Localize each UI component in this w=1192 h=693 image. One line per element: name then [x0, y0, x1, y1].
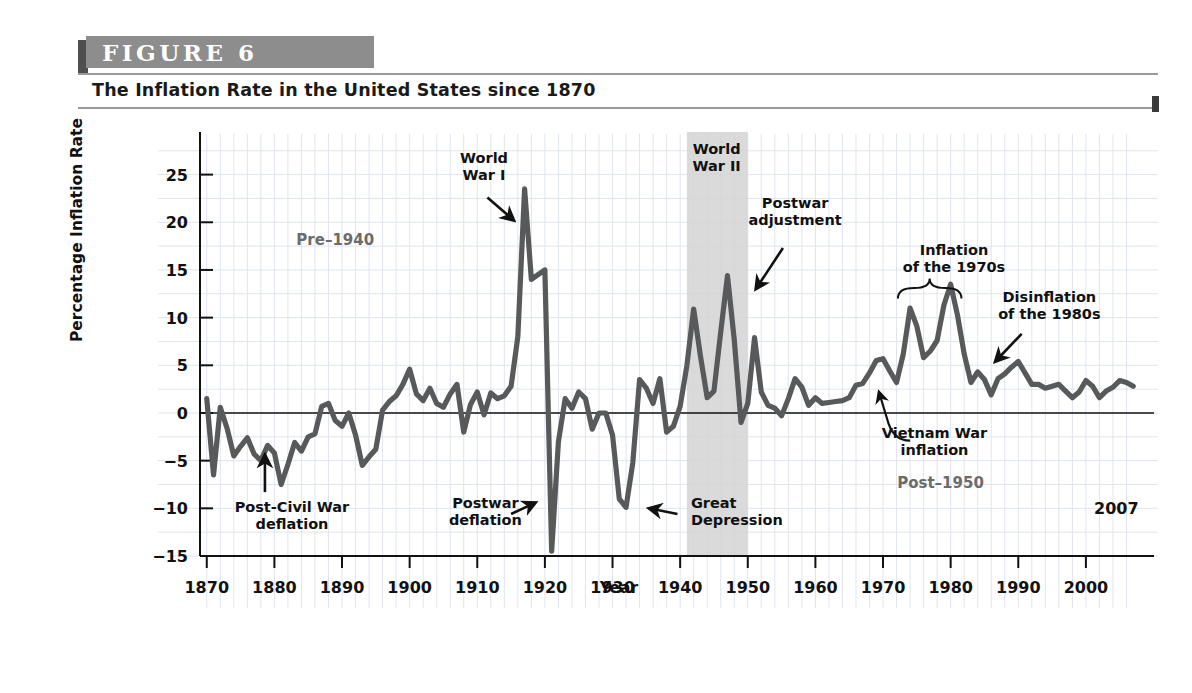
svg-text:0: 0 [177, 404, 188, 423]
svg-text:Vietnam Warinflation: Vietnam Warinflation [882, 425, 988, 458]
svg-text:20: 20 [166, 213, 188, 232]
figure-page: SOURCE: Constructed by the authors from … [0, 0, 1192, 693]
svg-text:Postwaradjustment: Postwaradjustment [748, 195, 841, 228]
svg-text:10: 10 [166, 309, 188, 328]
figure-number: FIGURE 6 [102, 39, 257, 66]
x-axis-title: Year [78, 579, 1160, 597]
svg-text:−5: −5 [163, 452, 188, 471]
svg-text:−10: −10 [152, 499, 188, 518]
svg-text:−15: −15 [152, 547, 188, 566]
divider-end-cap [1152, 96, 1159, 112]
annotation-layer: WorldWar IWorldWar IIPostwaradjustmentIn… [235, 141, 1139, 533]
y-axis-title: Percentage Inflation Rate [68, 118, 86, 342]
svg-text:2007: 2007 [1094, 499, 1139, 518]
figure-title: The Inflation Rate in the United States … [92, 80, 596, 100]
svg-text:Inflationof the 1970s: Inflationof the 1970s [903, 242, 1005, 275]
svg-text:WorldWar I: WorldWar I [460, 150, 508, 183]
svg-text:5: 5 [177, 356, 188, 375]
svg-text:Postwardeflation: Postwardeflation [449, 495, 522, 528]
svg-text:WorldWar II: WorldWar II [693, 141, 741, 174]
divider-top [78, 73, 1158, 75]
divider-bottom [78, 107, 1158, 109]
svg-text:Disinflationof the 1980s: Disinflationof the 1980s [998, 289, 1100, 322]
svg-text:Post–1950: Post–1950 [897, 474, 984, 492]
inflation-line-chart: −15−10−505101520251870188018901900191019… [78, 124, 1160, 614]
svg-text:25: 25 [166, 166, 188, 185]
svg-text:15: 15 [166, 261, 188, 280]
svg-text:Pre–1940: Pre–1940 [296, 231, 374, 249]
svg-text:Post-Civil Wardeflation: Post-Civil Wardeflation [235, 499, 350, 532]
chart-plot-area: −15−10−505101520251870188018901900191019… [78, 124, 1160, 614]
